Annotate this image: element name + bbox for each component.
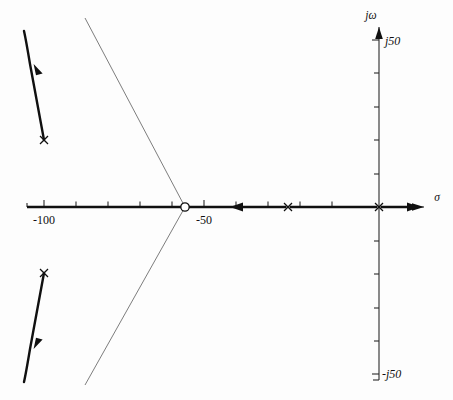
root-locus-figure: σ jω -100 -50 j50 -j50 (0, 0, 453, 400)
imaginary-axis-tick-label-minus-j50: -j50 (382, 367, 401, 381)
imaginary-axis-label: jω (363, 9, 376, 22)
root-locus-canvas: σ jω -100 -50 j50 -j50 (0, 0, 453, 400)
labels-group: σ jω -100 -50 j50 -j50 (33, 9, 441, 381)
lower-asymptote-line (85, 207, 185, 385)
upper-asymptote-line (85, 18, 185, 207)
imaginary-axis-arrowhead (375, 27, 383, 39)
lower-branch-direction-arrow (34, 338, 43, 349)
imaginary-axis-tick-label-j50: j50 (383, 34, 400, 48)
upper-complex-locus-branch (24, 31, 44, 140)
asymptotes-group (85, 18, 185, 385)
real-axis-tick-label-minus50: -50 (196, 213, 212, 227)
zero-marker (181, 203, 189, 211)
axes-group (27, 27, 424, 380)
zero-markers-group (181, 203, 189, 211)
upper-branch-direction-arrow (34, 64, 43, 75)
real-axis-tick-label-minus100: -100 (33, 213, 55, 227)
lower-complex-locus-branch (24, 273, 44, 382)
real-axis-label: σ (434, 191, 441, 203)
